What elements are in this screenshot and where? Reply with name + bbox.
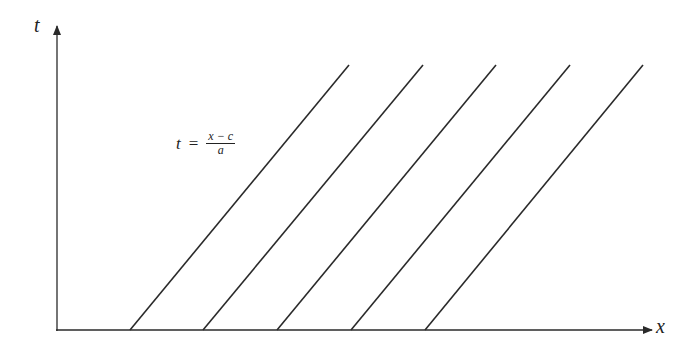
- t-axis-label: t: [34, 14, 40, 37]
- characteristic-equation: t = x − c a: [176, 130, 235, 157]
- characteristic-line-4: [351, 65, 570, 330]
- characteristic-lines: [130, 65, 643, 330]
- characteristic-line-3: [277, 65, 496, 330]
- characteristic-line-5: [425, 65, 643, 330]
- characteristic-line-1: [130, 65, 349, 330]
- equation-operator: =: [189, 134, 199, 154]
- equation-fraction: x − c a: [206, 130, 235, 157]
- x-axis-label: x: [656, 315, 665, 338]
- equation-denominator: a: [218, 144, 224, 157]
- equation-lhs: t: [176, 134, 181, 154]
- characteristics-diagram: [0, 0, 697, 345]
- equation-numerator: x − c: [206, 130, 235, 144]
- characteristic-line-2: [203, 65, 423, 330]
